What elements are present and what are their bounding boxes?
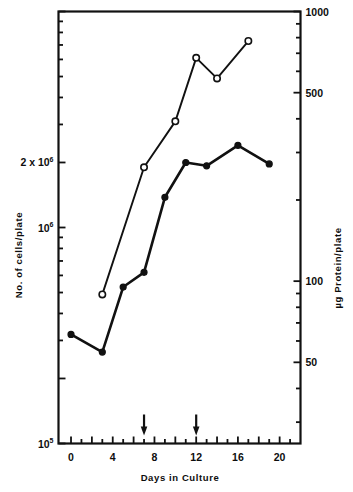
- data-point: [235, 142, 241, 148]
- data-point: [245, 38, 251, 44]
- right-tick-label: 50: [306, 356, 318, 368]
- data-point: [120, 284, 126, 290]
- left-tick-label: 2 x 106: [20, 156, 53, 169]
- data-point: [266, 161, 272, 167]
- data-point: [141, 269, 147, 275]
- secondary-y-axis-title: µg Protein/plate: [332, 227, 343, 308]
- x-tick-label: 16: [232, 451, 244, 463]
- right-tick-label: 500: [306, 87, 324, 99]
- data-point: [99, 349, 105, 355]
- data-point: [172, 118, 178, 124]
- data-point: [204, 163, 210, 169]
- y-axis-title: No. of cells/plate: [13, 212, 24, 298]
- right-tick-label: 1000: [306, 6, 330, 18]
- x-tick-label: 8: [152, 451, 158, 463]
- x-tick-label: 4: [110, 451, 116, 463]
- data-point: [99, 291, 105, 297]
- x-tick-label: 12: [190, 451, 202, 463]
- data-point: [193, 55, 199, 61]
- data-point: [183, 159, 189, 165]
- figure-container: 2 x 106106105 100050010050 048121620 No.…: [0, 0, 353, 492]
- data-point: [214, 75, 220, 81]
- data-point: [162, 194, 168, 200]
- x-tick-label: 20: [274, 451, 286, 463]
- x-axis-title: Days in Culture: [141, 472, 220, 483]
- scientific-line-chart: 2 x 106106105 100050010050 048121620 No.…: [0, 0, 353, 492]
- data-point: [68, 331, 74, 337]
- x-tick-label: 0: [68, 451, 74, 463]
- data-point: [141, 164, 147, 170]
- right-tick-label: 100: [306, 275, 324, 287]
